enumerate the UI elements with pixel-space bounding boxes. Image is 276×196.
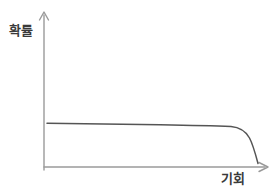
- y-axis-label: 확률: [9, 24, 33, 37]
- x-axis-label: 기회: [221, 172, 245, 185]
- plot-area: [0, 0, 276, 196]
- probability-curve: [47, 123, 258, 163]
- chart-figure: 확률 기회: [0, 0, 276, 196]
